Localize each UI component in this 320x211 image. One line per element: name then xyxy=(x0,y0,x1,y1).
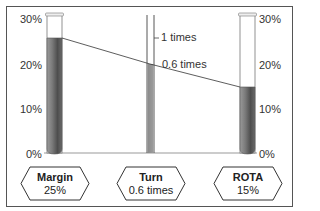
right-axis-10: 10% xyxy=(259,104,281,115)
left-axis-30: 30% xyxy=(20,14,42,25)
rota-tube xyxy=(239,13,257,154)
left-axis-20: 20% xyxy=(20,60,42,71)
turn-tube xyxy=(147,15,159,153)
turn-title: Turn xyxy=(117,171,185,184)
left-axis-0: 0% xyxy=(26,149,42,160)
point-six-times-label: 0.6 times xyxy=(162,59,207,70)
rota-title: ROTA xyxy=(214,171,282,184)
rota-box: ROTA 15% xyxy=(214,171,282,197)
rota-value: 15% xyxy=(214,184,282,197)
margin-box: Margin 25% xyxy=(21,171,89,197)
left-axis-10: 10% xyxy=(20,104,42,115)
one-times-label: 1 times xyxy=(161,32,196,43)
turn-value: 0.6 times xyxy=(117,184,185,197)
turn-box: Turn 0.6 times xyxy=(117,171,185,197)
right-axis-20: 20% xyxy=(259,60,281,71)
margin-value: 25% xyxy=(21,184,89,197)
right-axis-30: 30% xyxy=(259,14,281,25)
margin-tube xyxy=(46,13,64,154)
right-axis-0: 0% xyxy=(259,149,275,160)
margin-title: Margin xyxy=(21,171,89,184)
